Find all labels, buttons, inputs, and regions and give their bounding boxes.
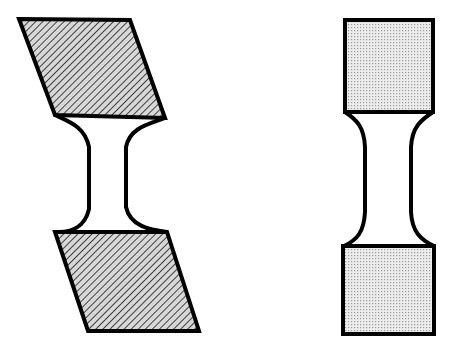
specimen-diagram — [0, 0, 449, 348]
figure-container — [0, 0, 449, 348]
undeformed-lower-grip — [343, 246, 434, 334]
undeformed-upper-grip — [345, 20, 433, 112]
